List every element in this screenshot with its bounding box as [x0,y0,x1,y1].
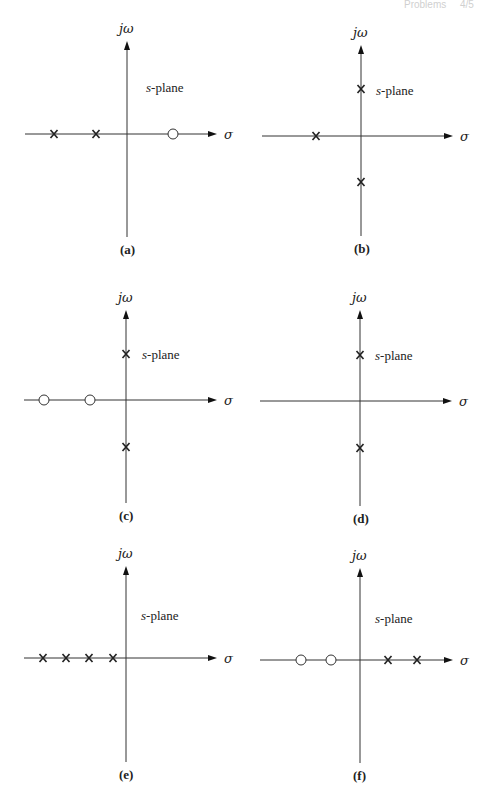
imag-axis-label: jω [116,21,134,36]
zero-marker-icon [296,655,306,665]
imag-axis-label: jω [115,546,133,561]
panel-label: (d) [353,511,369,526]
s-plane-label: s-plane [375,348,413,363]
arrow-up-icon [123,566,129,575]
arrow-up-icon [124,41,130,50]
panel-e: jωσs-plane(e) [24,546,234,782]
s-plane-label: s-plane [141,608,179,623]
arrow-right-icon [208,397,217,403]
panel-c: jωσs-plane(c) [24,290,234,523]
s-plane-label: s-plane [376,83,414,98]
panel-f: jωσs-plane(f) [260,548,470,783]
real-axis-label: σ [460,653,470,668]
real-axis-label: σ [459,394,469,409]
arrow-up-icon [357,310,363,319]
panel-d: jωσs-plane(d) [260,290,469,526]
arrow-up-icon [123,310,129,319]
arrow-up-icon [357,568,363,577]
arrow-right-icon [208,131,217,137]
panel-label: (c) [119,508,133,523]
imag-axis-label: jω [115,290,133,305]
panel-label: (e) [119,767,133,782]
arrow-right-icon [444,657,453,663]
panel-label: (a) [120,242,135,257]
zero-marker-icon [39,395,49,405]
imag-axis-label: jω [350,25,368,40]
pole-zero-figure: Problems 4/5 jωσs-plane(a)jωσs-plane(b)j… [0,0,490,806]
real-axis-label: σ [224,393,234,408]
page-number: 4/5 [460,0,474,10]
zero-marker-icon [85,395,95,405]
arrow-right-icon [443,398,452,404]
real-axis-label: σ [224,127,234,142]
panel-a: jωσs-plane(a) [25,21,234,257]
s-plane-label: s-plane [142,347,180,362]
arrow-right-icon [444,133,453,139]
page-header: Problems [404,0,446,10]
real-axis-label: σ [224,651,234,666]
zero-marker-icon [326,655,336,665]
panel-label: (f) [353,768,366,783]
panel-label: (b) [354,241,370,256]
real-axis-label: σ [460,129,470,144]
imag-axis-label: jω [349,290,367,305]
s-plane-label: s-plane [375,611,413,626]
panel-b: jωσs-plane(b) [262,25,470,256]
s-plane-label: s-plane [146,80,184,95]
arrow-up-icon [358,45,364,54]
arrow-right-icon [208,655,217,661]
zero-marker-icon [168,129,178,139]
imag-axis-label: jω [349,548,367,563]
